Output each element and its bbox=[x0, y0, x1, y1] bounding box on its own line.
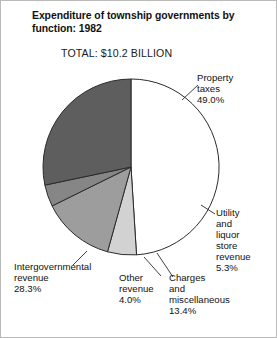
figure-frame: Expenditure of township governments by f… bbox=[0, 0, 277, 338]
pie-slice-intergovernmental-revenue bbox=[43, 79, 131, 185]
slice-label-other-revenue: Other revenue 4.0% bbox=[119, 273, 171, 306]
slice-label-intergovernmental: Intergovernmental revenue 28.3% bbox=[14, 262, 118, 295]
slice-label-property-taxes: Property taxes 49.0% bbox=[197, 73, 271, 106]
pie-slices bbox=[43, 79, 219, 255]
slice-label-charges-misc: Charges and miscellaneous 13.4% bbox=[169, 273, 255, 317]
leader-line-property bbox=[182, 85, 198, 100]
slice-label-utility-liquor: Utility and liquor store revenue 5.3% bbox=[216, 208, 276, 273]
